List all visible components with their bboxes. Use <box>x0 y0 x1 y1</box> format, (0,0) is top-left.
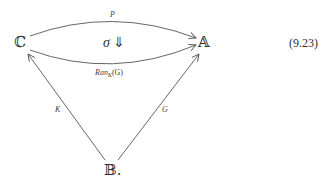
two-cell-sigma: σ ⇓ <box>103 36 125 50</box>
double-down-arrow-icon: ⇓ <box>113 35 125 50</box>
label-K: K <box>55 106 60 114</box>
diagram-arrows <box>0 0 333 185</box>
label-P: P <box>110 11 115 19</box>
label-ran-arg: (G) <box>112 68 123 77</box>
equation-number: (9.23) <box>289 37 318 49</box>
sigma-symbol: σ <box>103 35 110 50</box>
label-RanK-G: RanK(G) <box>95 69 123 78</box>
node-C: ℂ <box>14 35 26 50</box>
label-G: G <box>162 106 168 114</box>
arrow-K <box>28 54 105 160</box>
arrow-G <box>118 54 199 160</box>
node-B: 𝔹. <box>104 163 121 178</box>
label-ran: Ran <box>95 68 108 77</box>
node-A: 𝔸 <box>198 35 210 50</box>
